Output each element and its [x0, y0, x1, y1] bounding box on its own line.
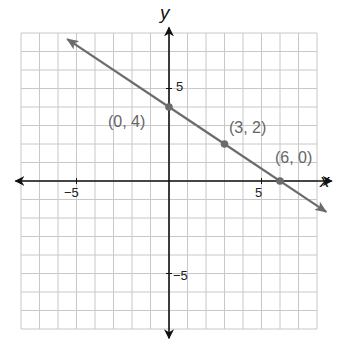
y-tick-5: 5	[176, 80, 183, 93]
y-tick-neg5: −5	[173, 269, 188, 282]
point-label-6-0: (6, 0)	[275, 150, 312, 166]
point-label-3-2: (3, 2)	[229, 120, 266, 136]
x-tick-5: 5	[255, 186, 262, 199]
y-axis-label: y	[160, 3, 170, 22]
x-tick-neg5: −5	[64, 186, 79, 199]
x-axis-label: x	[320, 171, 330, 190]
coordinate-plane	[0, 0, 350, 350]
point-label-0-4: (0, 4)	[108, 114, 145, 130]
